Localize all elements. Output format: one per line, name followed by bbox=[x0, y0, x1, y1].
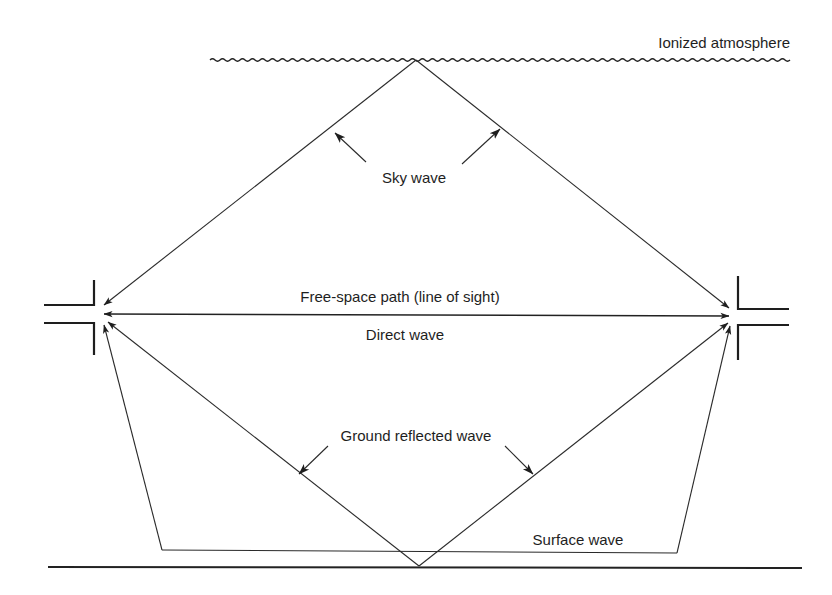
ground-reflected-pointer-left bbox=[299, 446, 328, 474]
free-space-path-label: Free-space path (line of sight) bbox=[300, 288, 499, 305]
propagation-diagram: Ionized atmosphere Sky wave Free-space p… bbox=[0, 0, 832, 595]
ionized-atmosphere-label: Ionized atmosphere bbox=[658, 34, 790, 51]
sky-wave-pointer-right bbox=[462, 129, 500, 164]
ground-line bbox=[48, 567, 802, 568]
ionized-atmosphere-boundary bbox=[210, 59, 790, 62]
receiver-antenna-icon bbox=[738, 276, 789, 360]
surface-wave-base bbox=[162, 550, 677, 553]
direct-wave-label: Direct wave bbox=[366, 326, 444, 343]
sky-wave-label: Sky wave bbox=[382, 169, 446, 186]
ground-reflected-pointer-right bbox=[505, 446, 533, 474]
sky-wave-right-ray bbox=[416, 60, 729, 308]
direct-wave-ray bbox=[104, 314, 729, 316]
sky-wave-pointer-left bbox=[335, 133, 366, 162]
surface-wave-left-leg bbox=[104, 325, 162, 550]
ground-reflected-right-ray bbox=[419, 323, 728, 566]
sky-wave-left-ray bbox=[104, 60, 416, 305]
ground-reflected-left-ray bbox=[108, 322, 419, 566]
surface-wave-label: Surface wave bbox=[533, 531, 624, 548]
surface-wave-right-leg bbox=[677, 326, 730, 553]
transmitter-antenna-icon bbox=[44, 280, 94, 355]
ground-reflected-wave-label: Ground reflected wave bbox=[341, 427, 492, 444]
